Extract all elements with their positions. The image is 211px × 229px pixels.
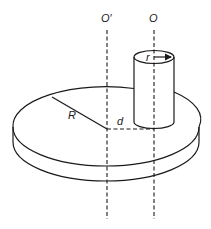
label-axis-o: O	[149, 12, 158, 24]
label-axis-o-prime: O′	[101, 12, 113, 24]
disk-radius-line	[52, 97, 107, 129]
label-disk-radius: R	[68, 109, 76, 121]
disk-bottom-ellipse	[13, 142, 199, 181]
disk-top-ellipse-back-right	[174, 92, 201, 127]
parallel-axis-diagram: O′ O R r d	[0, 0, 211, 229]
disk-top-ellipse-front	[13, 127, 199, 166]
label-cylinder-radius: r	[146, 51, 151, 63]
label-axis-separation: d	[117, 115, 124, 127]
